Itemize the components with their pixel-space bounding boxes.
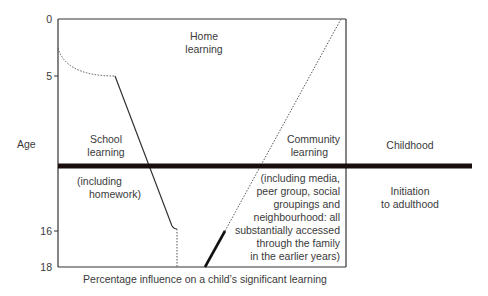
y-tick-label-5: 5 — [22, 70, 52, 83]
home-line-1: Home — [164, 30, 244, 43]
community-note: (including media, peer group, social gro… — [210, 172, 340, 263]
community-note-line-6: through the family — [210, 237, 340, 250]
x-axis-label: Percentage influence on a child’s signif… — [40, 273, 370, 286]
school-note: (including homework) — [77, 175, 167, 201]
community-learning-label: Community learning — [250, 133, 340, 159]
home-school-boundary-dotted — [58, 48, 115, 76]
y-axis-label: Age — [17, 138, 36, 151]
school-line-2: learning — [66, 146, 146, 159]
community-line-2: learning — [250, 146, 340, 159]
community-note-line-7: in the earlier years) — [210, 250, 340, 263]
home-learning-label: Home learning — [164, 30, 244, 56]
adulthood-line-1: Initiation — [360, 185, 460, 198]
school-learning-label: School learning — [66, 133, 146, 159]
childhood-label: Childhood — [360, 139, 460, 152]
school-note-line-1: (including — [77, 175, 167, 188]
community-line-1: Community — [250, 133, 340, 146]
y-tick-label-16: 16 — [22, 225, 52, 238]
adulthood-line-2: to adulthood — [360, 198, 460, 211]
school-note-line-2: homework) — [77, 188, 167, 201]
adulthood-label: Initiation to adulthood — [360, 185, 460, 211]
school-line-1: School — [66, 133, 146, 146]
community-note-line-1: (including media, — [210, 172, 340, 185]
community-note-line-5: substantially accessed — [210, 224, 340, 237]
community-note-line-3: groupings and — [210, 198, 340, 211]
community-note-line-4: neighbourhood: all — [210, 211, 340, 224]
y-tick-label-0: 0 — [22, 13, 52, 26]
home-line-2: learning — [164, 43, 244, 56]
community-note-line-2: peer group, social — [210, 185, 340, 198]
